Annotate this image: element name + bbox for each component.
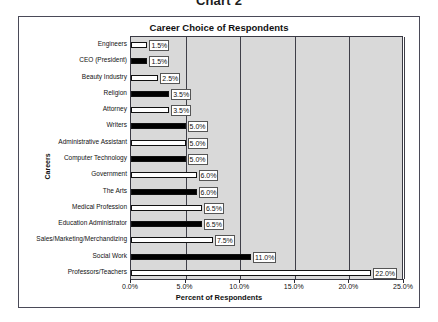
x-tick-mark (239, 279, 240, 283)
x-tick-label: 15.0% (284, 283, 304, 290)
category-label: Administrative Assistant (22, 138, 130, 145)
bar (131, 254, 251, 260)
x-tick-label: 10.0% (229, 283, 249, 290)
gridline (295, 37, 296, 279)
bar-value-label: 6.5% (204, 219, 224, 230)
bar (131, 91, 169, 97)
bar (131, 172, 197, 178)
bar-value-label: 6.0% (199, 187, 219, 198)
x-tick-mark (403, 279, 404, 283)
gridline (240, 37, 241, 279)
category-axis-labels: EngineersCEO (President)Beauty IndustryR… (19, 36, 130, 280)
category-label: Attorney (22, 105, 130, 112)
category-label: Computer Technology (22, 154, 130, 161)
category-label: Sales/Marketing/Merchandizing (22, 235, 130, 242)
bar-value-label: 6.0% (199, 170, 219, 181)
x-tick-mark (348, 279, 349, 283)
bar (131, 107, 169, 113)
category-label: Beauty Industry (22, 73, 130, 80)
bar (131, 221, 202, 227)
x-tick-label: 5.0% (177, 283, 193, 290)
x-tick-mark (185, 279, 186, 283)
chart-title: Career Choice of Respondents (19, 22, 419, 33)
category-label: Engineers (22, 40, 130, 47)
x-tick-label: 20.0% (338, 283, 358, 290)
page-heading: Chart 2 (0, 0, 438, 8)
category-label: Social Work (22, 252, 130, 259)
bar (131, 156, 186, 162)
x-tick-mark (294, 279, 295, 283)
bar-value-label: 3.5% (171, 105, 191, 116)
bar (131, 75, 158, 81)
category-label: Professors/Teachers (22, 268, 130, 275)
chart-frame: Career Choice of Respondents Careers Eng… (18, 16, 420, 308)
category-label: Medical Profession (22, 203, 130, 210)
bar (131, 42, 147, 48)
plot-area: 1.5%1.5%2.5%3.5%3.5%5.0%5.0%5.0%6.0%6.0%… (130, 36, 403, 280)
category-label: The Arts (22, 187, 130, 194)
bar-value-label: 2.5% (160, 73, 180, 84)
category-label: CEO (President) (22, 56, 130, 63)
x-tick-label: 0.0% (122, 283, 138, 290)
category-label: Religion (22, 89, 130, 96)
bar (131, 123, 186, 129)
bar-value-label: 5.0% (188, 154, 208, 165)
bar-value-label: 6.5% (204, 203, 224, 214)
x-tick-mark (130, 279, 131, 283)
bar (131, 58, 147, 64)
category-label: Education Administrator (22, 219, 130, 226)
bar-value-label: 22.0% (373, 268, 397, 279)
bar (131, 140, 186, 146)
bar-value-label: 5.0% (188, 121, 208, 132)
category-label: Government (22, 170, 130, 177)
gridline (349, 37, 350, 279)
x-axis-title: Percent of Respondents (19, 293, 419, 302)
x-tick-label: 25.0% (393, 283, 413, 290)
bar (131, 270, 371, 276)
bar (131, 189, 197, 195)
bar-value-label: 5.0% (188, 138, 208, 149)
bar-value-label: 7.5% (215, 235, 235, 246)
gridline (404, 37, 405, 279)
bar (131, 237, 213, 243)
bar (131, 205, 202, 211)
bar-value-label: 3.5% (171, 89, 191, 100)
category-label: Writers (22, 121, 130, 128)
bar-value-label: 11.0% (253, 252, 276, 263)
bar-value-label: 1.5% (149, 40, 169, 51)
bar-value-label: 1.5% (149, 56, 169, 67)
